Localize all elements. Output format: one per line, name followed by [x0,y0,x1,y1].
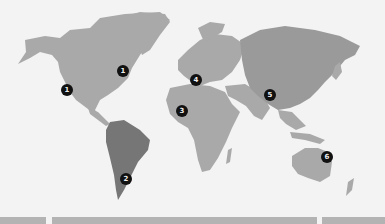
map-marker-north-america-west[interactable]: 1 [61,84,73,96]
map-marker-australia[interactable]: 6 [321,151,333,163]
bottom-bar-right [322,217,385,224]
map-marker-europe[interactable]: 4 [190,74,202,86]
new-zealand [346,178,354,196]
map-marker-south-america[interactable]: 2 [120,173,132,185]
madagascar [226,148,232,164]
continent-south-america [106,120,150,200]
bottom-bar-center [52,217,317,224]
central-america [88,108,110,126]
map-marker-north-america-east[interactable]: 1 [117,65,129,77]
map-marker-asia[interactable]: 5 [264,89,276,101]
world-map [0,0,385,224]
bottom-bar-left [0,217,46,224]
indonesia [290,132,325,144]
southeast-asia [278,110,306,130]
map-marker-africa[interactable]: 3 [176,105,188,117]
continent-europe [178,34,245,86]
